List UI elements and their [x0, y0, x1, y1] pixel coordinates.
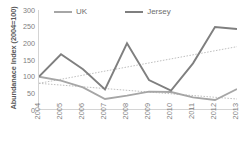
series-line-jersey[interactable]	[39, 27, 237, 91]
x-axis-tick-2005: 2005	[54, 103, 66, 133]
x-axis-tick-2010: 2010	[164, 103, 176, 133]
x-axis-tick-2012: 2012	[208, 103, 220, 133]
x-axis-tick-2004: 2004	[32, 103, 44, 133]
y-axis-tick-200: 200	[18, 40, 35, 47]
y-axis-tick-250: 250	[18, 23, 35, 30]
x-axis-tick-2011: 2011	[186, 103, 198, 133]
y-axis-tick-100: 100	[18, 73, 35, 80]
x-axis-tick-2007: 2007	[98, 103, 110, 133]
trendline-jersey	[39, 47, 237, 84]
abundance-index-line-chart: Abundanace Index (2004=100) 300250200150…	[0, 0, 242, 150]
y-axis-tick-300: 300	[18, 7, 35, 14]
x-axis-tick-2013: 2013	[230, 103, 242, 133]
plot-area	[38, 10, 236, 110]
x-axis-tick-2009: 2009	[142, 103, 154, 133]
x-axis-tick-2006: 2006	[76, 103, 88, 133]
y-axis-tick-50: 50	[18, 90, 35, 97]
series-canvas	[39, 10, 237, 110]
x-axis-tick-2008: 2008	[120, 103, 132, 133]
trendline-uk	[39, 83, 237, 99]
x-axis-tick-labels: 2004200520062007200820092010201120122013	[38, 112, 236, 150]
y-axis-tick-150: 150	[18, 57, 35, 64]
